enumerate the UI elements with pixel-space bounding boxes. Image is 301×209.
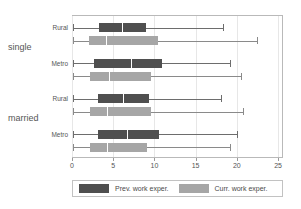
x-tick-label-10: 10 (151, 162, 159, 169)
whisker-high (162, 63, 230, 64)
whisker-high (147, 147, 230, 148)
whisker-low (73, 41, 89, 42)
x-tick-label-0: 0 (70, 162, 74, 169)
median-line (123, 94, 124, 103)
whisker-high (158, 41, 258, 42)
legend-label-curr: Curr. work exper. (215, 185, 268, 192)
median-line (107, 143, 108, 152)
gridline-25 (278, 16, 279, 157)
whisker-low (73, 28, 99, 29)
x-tick-10 (154, 158, 155, 161)
whisker-low (73, 99, 99, 100)
whisker-high (146, 28, 223, 29)
cap-low (73, 73, 74, 80)
chart-legend: Prev. work exper.Curr. work exper. (72, 180, 283, 197)
box-prev (94, 59, 162, 68)
median-line (131, 59, 132, 68)
whisker-low (73, 147, 90, 148)
cap-low (73, 24, 74, 31)
median-line (106, 36, 107, 45)
gridline-15 (196, 16, 197, 157)
whisker-low (73, 76, 90, 77)
category-label-married-metro: Metro (20, 131, 68, 138)
cap-low (73, 144, 74, 151)
legend-label-prev: Prev. work exper. (115, 185, 169, 192)
box-curr (90, 143, 147, 152)
cap-high (243, 108, 244, 115)
legend-item-prev[interactable]: Prev. work exper. (79, 184, 169, 193)
cap-high (257, 37, 258, 44)
cap-low (73, 37, 74, 44)
whisker-high (159, 134, 237, 135)
cap-high (230, 144, 231, 151)
group-label-single: single (8, 42, 32, 52)
cap-high (221, 95, 222, 102)
median-line (107, 107, 108, 116)
group-label-married: married (8, 113, 39, 123)
whisker-high (151, 76, 241, 77)
whisker-low (73, 112, 90, 113)
x-tick-label-25: 25 (274, 162, 282, 169)
median-line (127, 130, 128, 139)
cap-high (230, 60, 231, 67)
whisker-low (73, 134, 99, 135)
whisker-low (73, 63, 94, 64)
x-tick-20 (237, 158, 238, 161)
box-curr (89, 36, 157, 45)
box-curr (90, 107, 151, 116)
category-label-single-rural: Rural (20, 24, 68, 31)
whisker-high (151, 112, 243, 113)
category-label-single-metro: Metro (20, 60, 68, 67)
median-line (122, 23, 123, 32)
cap-low (73, 95, 74, 102)
x-tick-label-15: 15 (192, 162, 200, 169)
whisker-high (149, 99, 221, 100)
cap-high (237, 131, 238, 138)
cap-high (223, 24, 224, 31)
x-tick-0 (72, 158, 73, 161)
legend-item-curr[interactable]: Curr. work exper. (179, 184, 268, 193)
x-tick-label-5: 5 (111, 162, 115, 169)
x-tick-15 (196, 158, 197, 161)
legend-swatch-curr (179, 184, 209, 193)
legend-swatch-prev (79, 184, 109, 193)
cap-low (73, 131, 74, 138)
median-line (109, 72, 110, 81)
box-prev (98, 130, 158, 139)
x-tick-25 (278, 158, 279, 161)
boxplot-figure: singlemarried RuralMetroRuralMetro 05101… (0, 0, 301, 209)
cap-high (241, 73, 242, 80)
category-label-married-rural: Rural (20, 95, 68, 102)
box-curr (90, 72, 151, 81)
x-tick-label-20: 20 (233, 162, 241, 169)
cap-low (73, 60, 74, 67)
x-tick-5 (113, 158, 114, 161)
cap-low (73, 108, 74, 115)
